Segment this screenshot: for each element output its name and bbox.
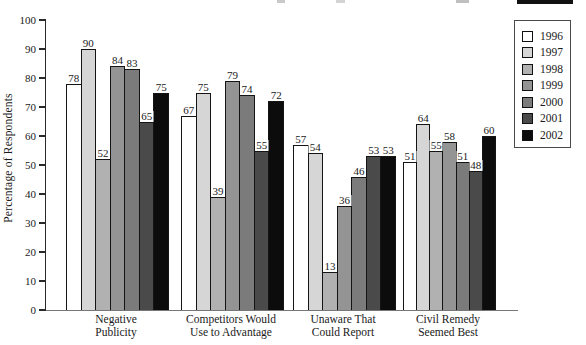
bar-value-label: 78: [67, 73, 80, 84]
legend-year-label: 2001: [540, 113, 563, 124]
y-axis-tick: [39, 77, 46, 79]
legend-year-label: 1997: [540, 47, 563, 58]
bar-group: 67753979745572: [181, 81, 284, 310]
category-label-line: Seemed Best: [383, 326, 513, 339]
category-label-line: Competitors Would: [166, 313, 296, 326]
bar-1998: 55: [429, 151, 443, 311]
y-axis-tick-label: 40: [4, 189, 36, 200]
bar-value-label: 58: [443, 131, 456, 142]
cropped-text-fragment-right: [456, 0, 469, 3]
legend-item-2001: 2001: [522, 111, 570, 128]
cropped-text-fragment-middle: [336, 0, 345, 3]
legend-swatch-icon: [522, 113, 533, 124]
y-axis-tick: [39, 251, 46, 253]
legend-item-1996: 1996: [522, 28, 570, 45]
legend-swatch-icon: [522, 47, 533, 58]
category-label: Competitors WouldUse to Advantage: [166, 313, 296, 339]
bar-value-label: 79: [226, 70, 239, 81]
bar-value-label: 46: [353, 166, 366, 177]
bar-value-label: 65: [140, 111, 153, 122]
bar-value-label: 74: [241, 84, 254, 95]
bar-value-label: 67: [182, 105, 195, 116]
legend-year-label: 1999: [540, 80, 563, 91]
legend-item-1997: 1997: [522, 45, 570, 62]
y-axis-tick-label: 90: [4, 44, 36, 55]
y-axis-tick: [39, 193, 46, 195]
cropped-text-fragment-left: [277, 0, 285, 3]
bar-group: 57541336465353: [293, 145, 396, 310]
category-label-line: Use to Advantage: [166, 326, 296, 339]
bar-value-label: 60: [482, 125, 495, 136]
bar-2002: 60: [482, 136, 496, 310]
bar-1998: 13: [322, 272, 338, 310]
bar-1996: 67: [181, 116, 197, 310]
y-axis-tick: [39, 106, 46, 108]
bar-2002: 72: [268, 101, 284, 310]
bar-value-label: 48: [469, 160, 482, 171]
y-axis-tick: [39, 280, 46, 282]
bar-value-label: 55: [255, 140, 268, 151]
bar-value-label: 64: [417, 113, 430, 124]
legend-swatch-icon: [522, 80, 533, 91]
bar-1996: 78: [66, 84, 82, 310]
plot-area: 0102030405060708090100789052848365756775…: [45, 20, 518, 311]
bar-1998: 52: [95, 159, 111, 310]
legend-swatch-icon: [522, 130, 533, 141]
bar-1999: 84: [110, 66, 126, 310]
y-axis-tick: [39, 309, 46, 311]
bar-value-label: 52: [96, 148, 109, 159]
legend-year-label: 2000: [540, 97, 563, 108]
bar-value-label: 57: [294, 134, 307, 145]
y-axis-tick-label: 100: [4, 15, 36, 26]
y-axis-tick: [39, 135, 46, 137]
bar-2001: 65: [139, 122, 155, 311]
legend-item-2000: 2000: [522, 94, 570, 111]
bar-2000: 46: [351, 177, 367, 310]
bar-2001: 55: [254, 151, 270, 311]
bar-1997: 64: [416, 124, 430, 310]
bar-chart-figure: Percentage of Respondents 01020304050607…: [0, 0, 586, 345]
bar-value-label: 53: [367, 145, 380, 156]
legend-swatch-icon: [522, 97, 533, 108]
bar-1997: 75: [196, 93, 212, 311]
category-label-line: Negative: [51, 313, 181, 326]
bar-1997: 54: [308, 153, 324, 310]
bar-1998: 39: [210, 197, 226, 310]
legend-year-label: 2002: [540, 130, 563, 141]
legend-item-1998: 1998: [522, 61, 570, 78]
bar-2002: 75: [153, 93, 169, 311]
bar-1999: 79: [225, 81, 241, 310]
bar-value-label: 75: [155, 82, 168, 93]
legend-swatch-icon: [522, 31, 533, 42]
y-axis-tick: [39, 222, 46, 224]
bar-value-label: 51: [404, 151, 417, 162]
bar-2000: 83: [124, 69, 140, 310]
category-label-line: Civil Remedy: [383, 313, 513, 326]
bar-value-label: 53: [382, 145, 395, 156]
legend-year-label: 1998: [540, 64, 563, 75]
bar-value-label: 51: [456, 151, 469, 162]
y-axis-tick-label: 80: [4, 73, 36, 84]
legend-item-1999: 1999: [522, 78, 570, 95]
bar-value-label: 54: [309, 142, 322, 153]
bar-value-label: 72: [270, 90, 283, 101]
y-axis-tick-label: 50: [4, 160, 36, 171]
y-axis-tick-label: 10: [4, 276, 36, 287]
y-axis-tick-label: 70: [4, 102, 36, 113]
bar-value-label: 84: [111, 55, 124, 66]
bar-group: 51645558514860: [403, 124, 496, 310]
y-axis-tick-label: 0: [4, 305, 36, 316]
category-label: Civil RemedySeemed Best: [383, 313, 513, 339]
bar-1997: 90: [81, 49, 97, 310]
bar-1996: 57: [293, 145, 309, 310]
bar-group: 78905284836575: [66, 49, 169, 310]
y-axis-tick: [39, 48, 46, 50]
bar-value-label: 13: [323, 261, 336, 272]
bar-2000: 74: [239, 95, 255, 310]
y-axis-tick-label: 60: [4, 131, 36, 142]
bar-1999: 58: [442, 142, 456, 310]
legend: 1996199719981999200020012002: [514, 20, 571, 148]
cropped-black-bar: [517, 0, 573, 4]
bar-2000: 51: [456, 162, 470, 310]
legend-year-label: 1996: [540, 31, 563, 42]
